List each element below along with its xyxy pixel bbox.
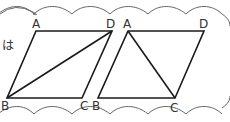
scalloped-border-right bbox=[222, 14, 230, 108]
left-label-d: D bbox=[106, 17, 115, 31]
scalloped-border-top bbox=[0, 7, 222, 15]
left-label-c: C bbox=[80, 99, 88, 113]
right-label-c: C bbox=[170, 101, 178, 115]
diagram-canvas: は A D B C A D B C bbox=[0, 0, 230, 122]
right-label-b: B bbox=[92, 99, 100, 113]
right-diagonal-ac bbox=[128, 31, 175, 98]
left-label-b: B bbox=[1, 99, 9, 113]
right-label-d: D bbox=[199, 17, 208, 31]
scalloped-border-bottom bbox=[0, 107, 222, 115]
side-text: は bbox=[2, 39, 14, 53]
right-label-a: A bbox=[123, 17, 132, 31]
left-label-a: A bbox=[32, 17, 41, 31]
